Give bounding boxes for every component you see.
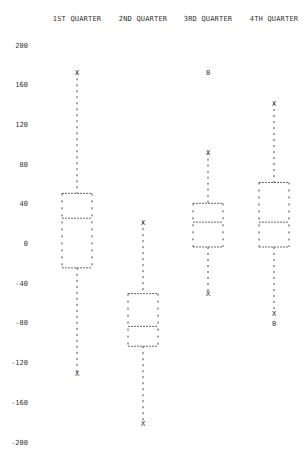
whisker-end-marker: X [272, 100, 277, 108]
outlier-marker: 0 [272, 320, 276, 328]
whisker-end-marker: X [206, 149, 211, 157]
outlier-marker: 0 [206, 69, 210, 77]
whisker-end-marker: X [272, 310, 277, 318]
box-1: XX [62, 69, 92, 378]
whisker-end-marker: X [141, 420, 146, 428]
box-3: XX0 [193, 69, 223, 298]
box-2: XX [128, 219, 158, 428]
whisker-end-marker: X [141, 219, 146, 227]
box-4: XX0 [259, 100, 289, 328]
whisker-end-marker: X [75, 370, 80, 378]
whisker-end-marker: X [75, 69, 80, 77]
whisker-end-marker: X [206, 290, 211, 298]
box-plot-area: XXXXXX0XX0 [0, 0, 307, 459]
